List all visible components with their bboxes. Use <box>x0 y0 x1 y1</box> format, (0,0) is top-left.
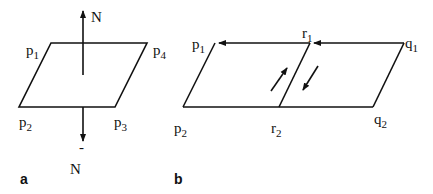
vertex-r2: r2 <box>271 120 282 139</box>
vertex-p2: p2 <box>174 120 187 139</box>
vertex-p1: p1 <box>26 42 39 61</box>
vertex-p4: p4 <box>153 42 167 61</box>
figure-a: N - N p1 p2 p3 p4 a <box>19 9 167 187</box>
flow-arrow-down <box>303 66 318 90</box>
label-n-up: N <box>91 9 102 25</box>
vertex-q2: q2 <box>374 111 387 130</box>
vertex-q1: q1 <box>405 35 418 54</box>
edge-r1-r2 <box>279 43 310 107</box>
edge-q2-q1 <box>373 43 404 107</box>
flow-arrow-up <box>271 68 287 91</box>
label-n-down: N <box>70 161 81 177</box>
figure: N - N p1 p2 p3 p4 a p1 r1 q1 p2 r2 q2 b <box>0 0 433 194</box>
panel-label-a: a <box>20 171 28 187</box>
label-n-bar: - <box>79 139 84 155</box>
vertex-p3: p3 <box>114 114 128 133</box>
vertex-p2: p2 <box>19 114 32 133</box>
figure-b: p1 r1 q1 p2 r2 q2 b <box>174 25 418 187</box>
panel-label-b: b <box>174 171 183 187</box>
vertex-r1: r1 <box>302 25 313 44</box>
vertex-p1: p1 <box>192 36 205 55</box>
